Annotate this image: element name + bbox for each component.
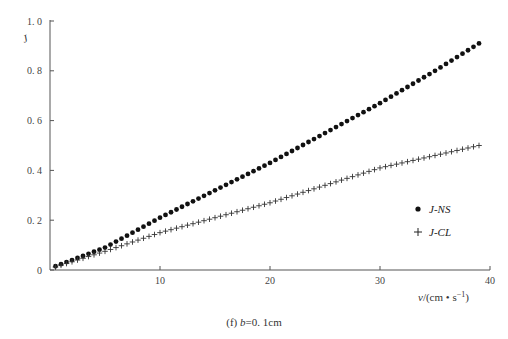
y-tick-label: 0 (37, 265, 42, 276)
chart: 00. 20. 40. 60. 81. 0 J 10203040 v/(cm •… (0, 0, 508, 310)
series-j-cl (53, 143, 482, 270)
y-tick-label: 0. 2 (27, 215, 42, 226)
legend-plus-icon (414, 228, 422, 236)
legend-dot-icon (415, 206, 420, 211)
x-axis-title: v/(cm • s−1) (418, 290, 469, 304)
legend-j-cl: J-CL (429, 226, 451, 238)
y-axis-title: J (21, 32, 31, 45)
x-tick-label: 40 (485, 275, 495, 286)
figure-caption: (f) b=0. 1cm (0, 316, 508, 328)
y-tick-label: 0. 6 (27, 115, 42, 126)
y-tick-label: 0. 8 (27, 65, 42, 76)
y-tick-label: 0. 4 (27, 165, 42, 176)
y-tick-label: 1. 0 (27, 16, 42, 27)
x-tick-label: 10 (155, 275, 165, 286)
legend-j-ns: J-NS (429, 203, 451, 215)
legend: J-NS J-CL (414, 203, 451, 238)
x-axis: 10203040 v/(cm • s−1) (50, 266, 495, 304)
series-j-ns (53, 41, 481, 269)
x-tick-label: 20 (265, 275, 275, 286)
y-axis: 00. 20. 40. 60. 81. 0 J (21, 16, 54, 276)
x-tick-label: 30 (375, 275, 385, 286)
